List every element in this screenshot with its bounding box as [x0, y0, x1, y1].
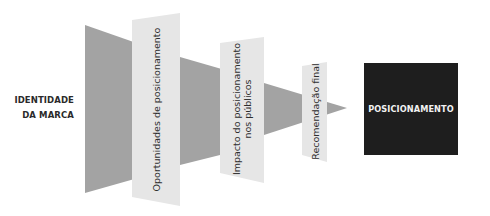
stage-label-3-text: Recomendação final [310, 63, 321, 159]
output-label: POSICIONAMENTO [368, 104, 454, 114]
input-label-brand-identity: IDENTIDADE DA MARCA [0, 93, 74, 123]
stage-label-2-line-1: Impacto do posicionamento [231, 39, 242, 179]
stage-label-3: Recomendação final [310, 62, 321, 162]
stage-label-1: Oportunidades de posicionamento [151, 15, 162, 205]
stage-label-1-text: Oportunidades de posicionamento [151, 28, 162, 192]
output-box-positioning: POSICIONAMENTO [364, 63, 458, 155]
stage-label-2-line-2: nos públicos [242, 39, 253, 179]
input-label-line-2: DA MARCA [0, 108, 74, 123]
input-label-line-1: IDENTIDADE [0, 93, 74, 108]
stage-label-2: Impacto do posicionamento nos públicos [231, 39, 253, 179]
